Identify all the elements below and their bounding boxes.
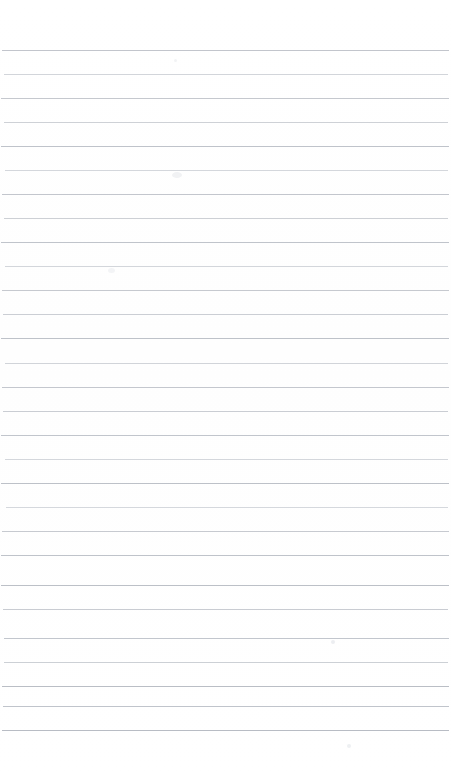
rule-line	[1, 98, 449, 99]
rule-line	[1, 585, 449, 586]
rule-line	[2, 730, 449, 731]
rule-line	[2, 194, 449, 195]
rule-line	[2, 50, 449, 51]
rule-line	[1, 483, 449, 484]
rule-line	[1, 338, 449, 339]
rule-line	[4, 74, 448, 75]
rule-line	[4, 122, 448, 123]
rule-line	[5, 266, 448, 267]
rule-line	[3, 609, 448, 610]
rule-line	[3, 314, 448, 315]
rule-line	[2, 387, 449, 388]
rule-line	[2, 290, 449, 291]
scan-speck-lower-right	[331, 640, 335, 644]
scan-smudge-upper	[172, 172, 182, 178]
rule-line	[5, 363, 448, 364]
rule-line	[4, 638, 449, 639]
rule-line	[4, 218, 448, 219]
rule-line	[4, 662, 448, 663]
rule-line	[5, 170, 448, 171]
rule-line	[2, 686, 449, 687]
rule-line	[3, 411, 448, 412]
rule-line	[5, 459, 448, 460]
rule-line	[3, 706, 449, 707]
rule-line	[1, 242, 449, 243]
rule-line	[1, 146, 449, 147]
rule-line	[1, 555, 449, 556]
scan-speck-bottom	[347, 744, 351, 748]
page-writing-area	[0, 0, 451, 781]
rule-line	[1, 435, 449, 436]
rule-line	[2, 531, 449, 532]
scanned-notebook-page: Blank Ruled Notebook Page	[0, 0, 451, 781]
scan-speck-top	[174, 59, 177, 62]
scan-smudge-mid	[108, 268, 115, 273]
rule-line	[6, 507, 448, 508]
